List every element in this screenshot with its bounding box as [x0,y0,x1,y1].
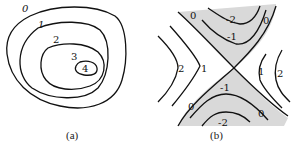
saddle-label-minus1-bottom: -1 [220,82,230,93]
caption-b: (b) [210,129,223,141]
caption-a: (a) [66,129,78,141]
saddle-label-2-right: 2 [277,68,283,79]
saddle-label-2-left: 2 [178,63,184,74]
peak-contour-diagram: 0 1 2 3 4 [0,0,150,150]
saddle-label-minus1-top: -1 [227,31,237,42]
contour-label-4: 4 [82,63,88,74]
saddle-label-1-left: 1 [201,63,207,74]
panel-a-peak-contours: 0 1 2 3 4 (a) [0,0,150,150]
saddle-label-minus2-bottom: -2 [218,117,228,128]
saddle-label-0-top-right: 0 [263,15,269,26]
saddle-label-0-bottom-left: 0 [188,101,194,112]
contour-label-1: 1 [38,19,44,30]
contour-label-2: 2 [53,34,59,45]
contour-line-2-left [158,36,178,102]
contour-label-3: 3 [71,51,77,62]
saddle-label-1-right: 1 [258,66,264,77]
saddle-label-minus2-top: -2 [226,14,236,25]
contour-label-0: 0 [22,3,29,14]
saddle-label-0-bottom-right: 0 [258,108,264,119]
saddle-label-0-top-left: 0 [190,10,196,21]
panel-b-saddle-contours: 0 -2 0 -1 2 1 1 2 -1 0 0 -2 (b) [150,0,300,150]
contour-line-1-left [170,26,200,106]
contour-line-1 [20,22,108,98]
saddle-contour-diagram: 0 -2 0 -1 2 1 1 2 -1 0 0 -2 [150,0,300,150]
